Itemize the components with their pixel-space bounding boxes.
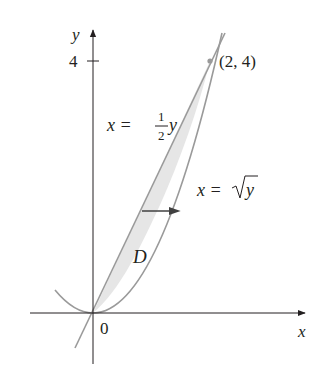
- sqrt-equation-label: x = y: [196, 176, 258, 200]
- y-axis-label: y: [70, 25, 80, 44]
- parabola-curve: [55, 33, 222, 313]
- line-eq-numerator: 1: [158, 109, 165, 124]
- sqrt-eq-lhs: x =: [196, 180, 222, 200]
- region-label: D: [132, 246, 147, 267]
- region-diagram: y 4 x 0 (2, 4) D x = 1 2 y x = y: [0, 0, 328, 374]
- origin-label: 0: [100, 319, 109, 338]
- line-eq-lhs: x =: [106, 115, 132, 135]
- x-axis-label: x: [297, 322, 306, 341]
- line-eq-denominator: 2: [158, 128, 165, 143]
- radical-sign: [232, 176, 258, 198]
- sqrt-eq-arg: y: [244, 180, 254, 200]
- intersection-point: [207, 58, 212, 63]
- line-equation-label: x = 1 2 y: [106, 109, 177, 143]
- y-tick-label: 4: [69, 52, 78, 71]
- line-eq-var: y: [167, 115, 177, 135]
- point-label: (2, 4): [219, 52, 256, 71]
